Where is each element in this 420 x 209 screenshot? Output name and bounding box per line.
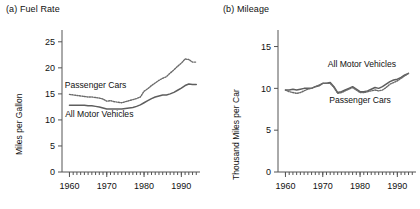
panel-b-plot: 0510151960197019801990All Motor Vehicles… (210, 0, 420, 209)
x-tick-label: 1960 (275, 181, 295, 191)
y-tick-label: 0 (50, 167, 55, 177)
y-tick-label: 15 (261, 42, 271, 52)
x-tick-label: 1960 (59, 181, 79, 191)
x-tick-label: 1980 (134, 181, 154, 191)
series-annotation: All Motor Vehicles (328, 59, 396, 69)
y-tick-label: 5 (50, 141, 55, 151)
series-passenger-cars (285, 73, 408, 93)
y-tick-label: 10 (45, 115, 55, 125)
y-tick-label: 5 (266, 125, 271, 135)
y-tick-label: 15 (45, 89, 55, 99)
x-tick-label: 1970 (313, 181, 333, 191)
y-tick-label: 0 (266, 167, 271, 177)
y-tick-label: 10 (261, 84, 271, 94)
figure-root: (a) Fuel Rate Miles per Gallon 051015202… (0, 0, 420, 209)
series-annotation: All Motor Vehicles (65, 109, 133, 119)
y-tick-label: 25 (45, 37, 55, 47)
series-annotation: Passenger Cars (65, 80, 127, 90)
panel-fuel-rate: (a) Fuel Rate Miles per Gallon 051015202… (0, 0, 210, 209)
panel-a-plot: 05101520251960197019801990Passenger Cars… (0, 0, 210, 209)
panel-mileage: (b) Mileage Thousand Miles per Car 05101… (210, 0, 420, 209)
x-tick-label: 1970 (97, 181, 117, 191)
x-tick-label: 1980 (350, 181, 370, 191)
x-tick-label: 1990 (171, 181, 191, 191)
series-annotation: Passenger Cars (329, 95, 391, 105)
y-tick-label: 20 (45, 63, 55, 73)
x-tick-label: 1990 (387, 181, 407, 191)
